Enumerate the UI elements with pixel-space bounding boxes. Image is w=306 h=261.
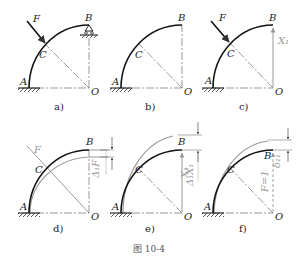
- label-O: O: [275, 86, 283, 97]
- fixed-support-a: [202, 88, 224, 92]
- label-C: C: [39, 49, 47, 60]
- fixed-support-a: [18, 213, 40, 217]
- force-f-arrow: [211, 21, 229, 42]
- label-B: B: [268, 12, 276, 23]
- label-delta-1x1: Δ₁X₁: [184, 164, 195, 187]
- radius-oc: [230, 43, 273, 88]
- label-O: O: [91, 86, 99, 97]
- roller-support-b: [80, 25, 98, 38]
- fixed-support-a: [110, 213, 132, 217]
- figure-caption: 图 10-4: [133, 244, 165, 254]
- panel-tag-e: e): [145, 223, 155, 234]
- label-A: A: [203, 201, 211, 212]
- label-C: C: [135, 164, 143, 175]
- label-B: B: [177, 12, 185, 23]
- force-f-arrow: [27, 21, 45, 43]
- label-F: F: [32, 13, 41, 24]
- figure-10-4: F B C A O a) B C A O b) F B X₁ C A O c): [0, 0, 306, 261]
- label-F: F: [33, 144, 42, 155]
- label-C: C: [227, 164, 235, 175]
- panel-tag-d: d): [53, 223, 63, 234]
- fixed-support-a: [18, 88, 40, 92]
- panel-f: B δ₁₁ F=1 C A O f): [202, 128, 292, 234]
- panel-a: F B C A O a): [18, 12, 99, 112]
- radius-oc: [139, 44, 182, 88]
- label-O: O: [91, 211, 99, 222]
- panel-tag-f: f): [239, 223, 247, 234]
- label-O: O: [275, 211, 283, 222]
- label-A: A: [111, 76, 119, 87]
- label-C: C: [227, 48, 235, 59]
- panel-tag-c: c): [239, 101, 249, 112]
- panel-c: F B X₁ C A O c): [202, 12, 289, 112]
- label-B: B: [177, 136, 185, 147]
- label-A: A: [19, 76, 27, 87]
- label-A: A: [111, 201, 119, 212]
- label-A: A: [204, 75, 212, 86]
- radius-oc: [45, 44, 89, 88]
- label-C: C: [135, 49, 143, 60]
- label-B: B: [84, 12, 92, 23]
- label-O: O: [184, 86, 192, 97]
- label-C: C: [35, 164, 43, 175]
- panel-tag-b: b): [145, 101, 155, 112]
- panel-tag-a: a): [54, 101, 64, 112]
- deformed-shape: [123, 136, 173, 213]
- label-B: B: [85, 136, 93, 147]
- radius-oc: [27, 146, 89, 213]
- fixed-support-a: [110, 88, 132, 92]
- label-delta-1F: Δ₁F: [90, 159, 101, 179]
- panel-d: F B C A O Δ₁F d): [18, 136, 108, 234]
- radius-oc: [138, 168, 182, 213]
- panel-e: B X₁ Δ₁X₁ C A O e): [100, 122, 202, 234]
- fixed-support-a: [202, 213, 224, 217]
- label-F: F: [218, 12, 227, 23]
- label-X1: X₁: [277, 35, 289, 46]
- label-unit-force: F=1: [259, 170, 270, 193]
- label-O: O: [184, 211, 192, 222]
- label-delta-11: δ₁₁: [271, 154, 282, 168]
- panel-b: B C A O b): [110, 12, 192, 112]
- label-A: A: [19, 201, 27, 212]
